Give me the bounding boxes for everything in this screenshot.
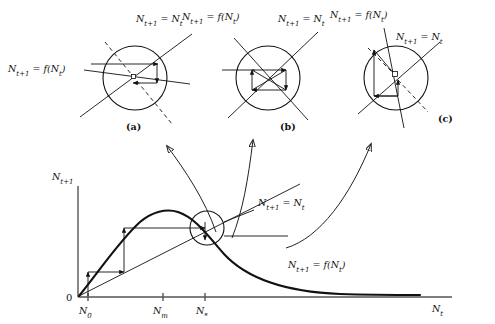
main-plot: Nt+1 Nt 0 N0 Nm N* Nt+1 = Nt Nt+1 = f(Nt… bbox=[51, 171, 452, 320]
inset-c-map-label: Nt+1 = f(Nt) bbox=[329, 9, 388, 24]
inset-a-fixed-point bbox=[132, 75, 136, 79]
pointer-arrow-to-c bbox=[286, 144, 371, 248]
inset-a-identity-label: Nt+1 = Nt bbox=[135, 13, 183, 28]
y-axis-label: Nt+1 bbox=[51, 171, 73, 186]
inset-b-map-label: Nt+1 = f(Nt) bbox=[181, 11, 240, 26]
figure-canvas: Nt+1 = f(Nt) Nt+1 = Nt (a) bbox=[0, 0, 495, 324]
identity-line-label: Nt+1 = Nt bbox=[257, 197, 305, 212]
inset-panel-c: Nt+1 = f(Nt) Nt+1 = Nt (c) bbox=[329, 9, 453, 128]
x-tick-label-nm: Nm bbox=[152, 305, 168, 320]
inset-panel-b: Nt+1 = f(Nt) Nt+1 = Nt (b) bbox=[181, 11, 325, 132]
inset-c-panel-label: (c) bbox=[438, 113, 453, 124]
inset-b-identity-label: Nt+1 = Nt bbox=[277, 13, 325, 28]
x-tick-label-nstar: N* bbox=[195, 305, 208, 320]
inset-c-map-line bbox=[384, 28, 404, 128]
stability-diagram: Nt+1 = f(Nt) Nt+1 = Nt (a) bbox=[0, 0, 495, 324]
inset-c-fixed-point bbox=[393, 72, 398, 77]
inset-b-panel-label: (b) bbox=[280, 121, 296, 132]
identity-diagonal bbox=[79, 184, 300, 296]
inset-panel-a: Nt+1 = f(Nt) Nt+1 = Nt (a) bbox=[7, 13, 192, 132]
x-tick-label-n0: N0 bbox=[78, 305, 92, 320]
map-curve-label: Nt+1 = f(Nt) bbox=[287, 259, 346, 274]
inset-b-identity-line bbox=[228, 32, 318, 118]
inset-a-map-label: Nt+1 = f(Nt) bbox=[7, 63, 66, 78]
inset-a-panel-label: (a) bbox=[126, 121, 141, 132]
map-curve bbox=[79, 210, 420, 296]
inset-c-identity-label: Nt+1 = Nt bbox=[395, 31, 443, 46]
inset-c-dashed-ref2 bbox=[398, 80, 428, 112]
identity-label-leader bbox=[224, 210, 254, 222]
pointer-arrow-to-b bbox=[232, 140, 253, 238]
x-axis-label: Nt bbox=[431, 303, 443, 318]
inset-a-map-line bbox=[84, 70, 190, 84]
origin-label: 0 bbox=[66, 292, 72, 303]
